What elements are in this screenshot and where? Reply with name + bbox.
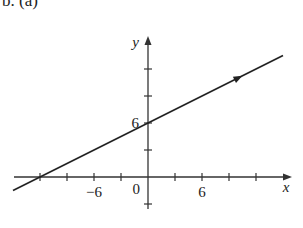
y-axis-label: y — [130, 34, 139, 50]
y-axis-arrow-icon — [145, 36, 152, 45]
x-tick-label: −6 — [86, 184, 102, 200]
x-tick-label: 6 — [198, 184, 206, 200]
origin-label: 0 — [133, 181, 141, 197]
direction-arrow-icon — [233, 73, 244, 83]
x-axis-label: x — [282, 179, 290, 195]
line-chart: −6660xy — [0, 0, 303, 228]
